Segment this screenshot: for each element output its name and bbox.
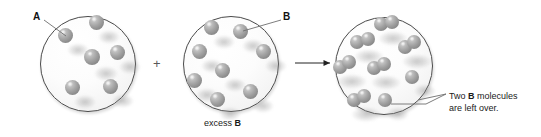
molecule-ab-product <box>361 32 375 46</box>
molecule-a <box>110 45 125 60</box>
leftover-molecule-b <box>405 70 419 84</box>
molecule-b <box>243 84 258 99</box>
molecule-b <box>192 44 207 59</box>
leftover-prefix: Two <box>449 91 468 101</box>
label-reactant-a: A <box>33 11 40 22</box>
label-reactant-b: B <box>283 11 290 22</box>
leftover-molecule-b <box>378 93 392 107</box>
reaction-arrow <box>295 60 330 66</box>
molecule-a <box>84 49 100 65</box>
excess-b-caption: excess B <box>204 118 241 128</box>
molecule-b <box>256 44 271 59</box>
figure-canvas: + excess B <box>0 0 541 137</box>
reactant-b-vessel <box>183 16 279 112</box>
molecule-b <box>233 24 248 39</box>
molecule-b <box>187 73 202 88</box>
molecule-ab-product <box>377 57 391 71</box>
molecule-a <box>89 15 104 30</box>
leftover-suffix: molecules <box>475 91 518 101</box>
molecule-b <box>215 63 230 78</box>
molecule-ab-product <box>357 89 371 103</box>
molecule-ab-product <box>385 15 399 29</box>
leftover-callout-line1: Two B molecules <box>449 91 518 103</box>
molecule-a <box>103 79 118 94</box>
molecule-ab-product <box>342 55 356 69</box>
molecule-b <box>210 92 225 107</box>
plus-operator: + <box>153 57 161 70</box>
leftover-callout-text: Two B molecules are left over. <box>449 91 518 114</box>
molecule-a <box>65 80 80 95</box>
excess-caption-species: B <box>235 118 242 128</box>
molecule-b <box>204 20 219 35</box>
leftover-callout-line2: are left over. <box>449 103 518 115</box>
excess-caption-prefix: excess <box>204 118 235 128</box>
molecule-ab-product <box>407 35 421 49</box>
molecule-a <box>58 28 73 43</box>
